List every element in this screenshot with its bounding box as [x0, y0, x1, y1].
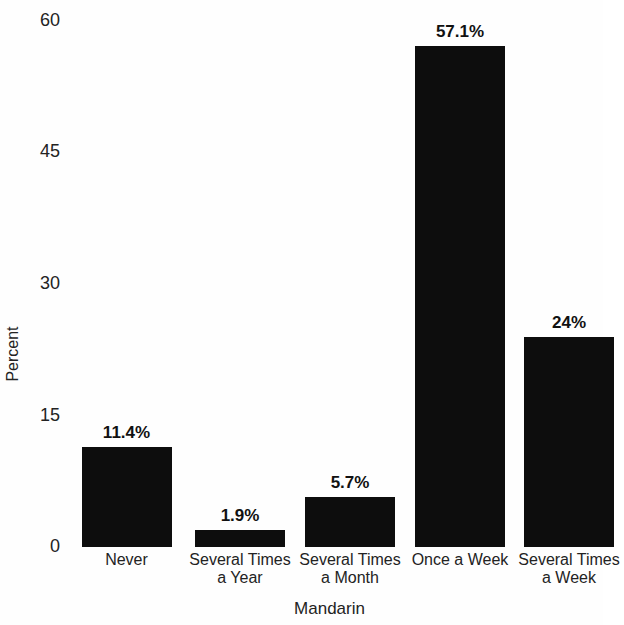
x-tick-line1: Several Times [183, 551, 297, 569]
bar[interactable] [524, 337, 614, 547]
y-tick-label: 45 [14, 142, 60, 160]
bar[interactable] [415, 46, 505, 547]
y-tick-label: 15 [14, 406, 60, 424]
x-tick-line1: Never [68, 551, 185, 569]
bar-group: 1.9% [185, 0, 295, 547]
bar-value-label: 24% [552, 314, 586, 331]
x-axis-tick-labels: Never Several Times a Year Several Times… [68, 551, 603, 599]
x-tick-line2: a Year [183, 569, 297, 587]
x-tick-label-never: Never [68, 551, 185, 569]
x-tick-line1: Once a Week [405, 551, 515, 569]
x-tick-line1: Several Times [513, 551, 624, 569]
bar-group: 11.4% [68, 0, 185, 547]
bar-value-label: 11.4% [103, 424, 150, 441]
bar[interactable] [305, 497, 395, 547]
bar-group: 57.1% [405, 0, 515, 547]
y-tick-label: 0 [14, 537, 60, 555]
x-tick-label-once-a-week: Once a Week [405, 551, 515, 569]
x-tick-line2: a Week [513, 569, 624, 587]
x-tick-label-several-times-a-year: Several Times a Year [183, 551, 297, 588]
bar[interactable] [195, 530, 285, 547]
bar-group: 5.7% [295, 0, 405, 547]
x-tick-label-several-times-a-month: Several Times a Month [293, 551, 407, 588]
bar-value-label: 1.9% [221, 507, 260, 524]
bar-value-label: 57.1% [436, 23, 484, 40]
x-tick-line2: a Month [293, 569, 407, 587]
bar[interactable] [82, 447, 172, 547]
y-tick-label: 30 [14, 274, 60, 292]
bar-value-label: 5.7% [331, 474, 370, 491]
x-tick-label-several-times-a-week: Several Times a Week [513, 551, 624, 588]
y-axis-tick-labels: 60 45 30 15 0 [14, 0, 60, 625]
x-axis-title: Mandarin [0, 599, 603, 619]
x-axis-title-text: Mandarin [294, 599, 365, 618]
y-tick-label: 60 [14, 11, 60, 29]
bar-group: 24% [515, 0, 623, 547]
plot-area: 11.4% 1.9% 5.7% 57.1% 24% [68, 0, 603, 547]
x-tick-line1: Several Times [293, 551, 407, 569]
